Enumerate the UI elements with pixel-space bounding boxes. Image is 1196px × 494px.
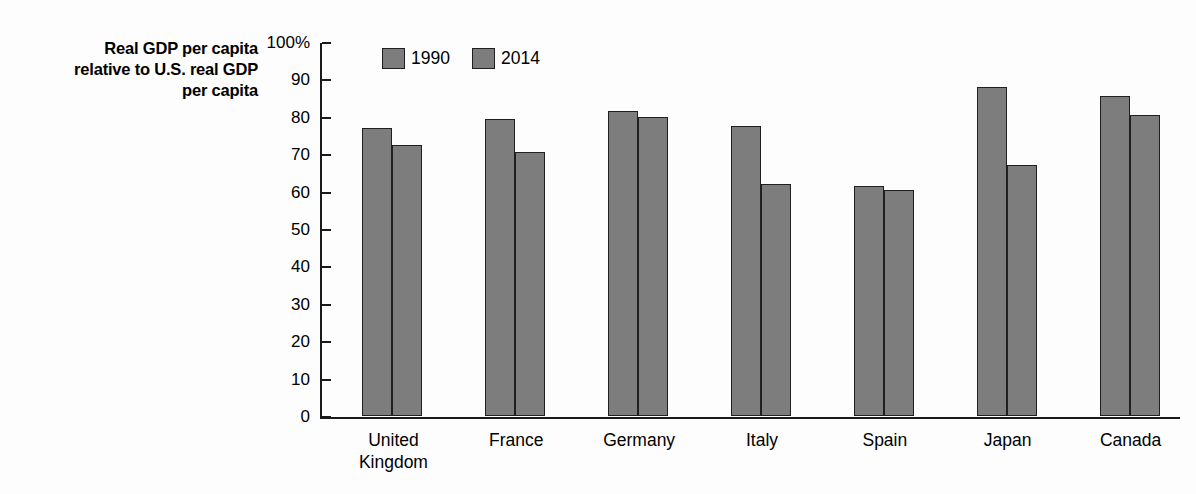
bar-group bbox=[362, 128, 422, 416]
bar-2014 bbox=[392, 145, 422, 416]
bar-group bbox=[854, 186, 914, 416]
x-axis-label-line-1: Canada bbox=[1056, 429, 1196, 451]
bar-2014 bbox=[515, 152, 545, 416]
x-axis-line bbox=[320, 417, 1180, 419]
bar-2014 bbox=[884, 190, 914, 416]
bar-1990 bbox=[362, 128, 392, 416]
y-tick-mark bbox=[322, 266, 331, 268]
y-tick-mark bbox=[322, 42, 331, 44]
plot-area: 100%9080706050403020100 bbox=[320, 43, 1180, 418]
y-tick-label: 90 bbox=[250, 71, 310, 88]
y-tick-label: 60 bbox=[250, 184, 310, 201]
bar-group bbox=[731, 126, 791, 416]
bar-1990 bbox=[977, 87, 1007, 416]
bar-group bbox=[977, 87, 1037, 416]
y-tick-mark bbox=[322, 229, 331, 231]
y-tick-mark bbox=[322, 154, 331, 156]
y-axis-title-line-2: relative to U.S. real GDP bbox=[28, 59, 258, 80]
bar-2014 bbox=[761, 184, 791, 416]
y-tick-label: 80 bbox=[250, 109, 310, 126]
y-tick-mark bbox=[322, 79, 331, 81]
y-tick-label: 0 bbox=[250, 408, 310, 425]
x-axis-label: Canada bbox=[1056, 429, 1196, 451]
bar-2014 bbox=[638, 117, 668, 416]
y-tick-label: 100% bbox=[250, 34, 310, 51]
x-axis-label-line-2: Kingdom bbox=[318, 451, 468, 473]
y-tick-label: 10 bbox=[250, 371, 310, 388]
y-tick-label: 30 bbox=[250, 296, 310, 313]
y-tick-mark bbox=[322, 379, 331, 381]
bar-1990 bbox=[731, 126, 761, 416]
bar-1990 bbox=[1100, 96, 1130, 416]
bar-2014 bbox=[1007, 165, 1037, 416]
y-tick-label: 50 bbox=[250, 221, 310, 238]
bar-1990 bbox=[608, 111, 638, 416]
y-tick-mark bbox=[322, 117, 331, 119]
y-axis-title: Real GDP per capita relative to U.S. rea… bbox=[28, 38, 258, 101]
y-tick-label: 70 bbox=[250, 146, 310, 163]
y-tick-mark bbox=[322, 304, 331, 306]
y-tick-label: 40 bbox=[250, 258, 310, 275]
y-tick-label: 20 bbox=[250, 333, 310, 350]
bar-1990 bbox=[485, 119, 515, 416]
bar-1990 bbox=[854, 186, 884, 416]
y-axis-title-line-1: Real GDP per capita bbox=[28, 38, 258, 59]
y-tick-mark bbox=[322, 341, 331, 343]
y-axis-title-line-3: per capita bbox=[28, 80, 258, 101]
bar-2014 bbox=[1130, 115, 1160, 416]
chart-figure: Real GDP per capita relative to U.S. rea… bbox=[0, 0, 1196, 494]
bar-group bbox=[1100, 96, 1160, 416]
bar-group bbox=[485, 119, 545, 416]
y-tick-mark bbox=[322, 416, 331, 418]
bar-group bbox=[608, 111, 668, 416]
y-tick-mark bbox=[322, 192, 331, 194]
